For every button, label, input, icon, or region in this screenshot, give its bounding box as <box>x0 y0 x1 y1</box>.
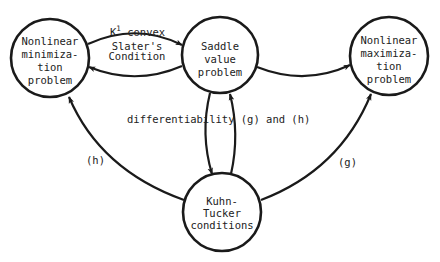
edge-label-condition: Condition <box>109 50 166 62</box>
edge-kuhn-tucker-to-saddle <box>230 94 235 174</box>
node-label-line: maximiza- <box>361 47 418 59</box>
node-label-line: problem <box>198 66 242 78</box>
node-label-line: tion <box>376 60 401 72</box>
node-nonlinear-minimization: Nonlinear minimiza- tion problem <box>11 19 89 97</box>
node-saddle-value: Saddle value problem <box>182 17 258 93</box>
node-label-line: minimiza- <box>22 48 79 60</box>
edge-saddle-to-kuhn-tucker <box>205 93 212 174</box>
node-label-line: Tucker <box>203 207 241 219</box>
node-label-line: Nonlinear <box>361 34 418 46</box>
node-label-line: problem <box>28 74 72 86</box>
node-nonlinear-maximization: Nonlinear maximiza- tion problem <box>350 17 428 95</box>
node-label-line: Saddle <box>201 40 239 52</box>
optimization-relationship-diagram: Nonlinear minimiza- tion problem Saddle … <box>0 0 440 262</box>
node-label-line: tion <box>37 61 62 73</box>
node-label-line: conditions <box>190 219 253 231</box>
node-label-line: problem <box>367 73 411 85</box>
edge-kuhn-tucker-to-max <box>261 94 371 200</box>
edge-saddle-to-min <box>89 66 182 76</box>
edge-saddle-to-max <box>257 65 350 76</box>
node-label-line: Nonlinear <box>22 35 79 47</box>
edge-label-h: (h) <box>86 154 105 166</box>
edge-label-g: (g) <box>338 156 357 168</box>
node-kuhn-tucker: Kuhn- Tucker conditions <box>183 173 261 251</box>
node-label-line: Kuhn- <box>206 195 238 207</box>
edge-label-k1-convex: K1 convex <box>110 24 165 38</box>
node-label-line: value <box>204 53 236 65</box>
edge-label-differentiability: differentiability (g) and (h) <box>127 113 310 125</box>
